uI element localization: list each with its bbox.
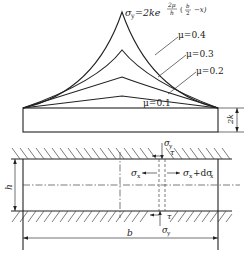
svg-text:h: h [170,9,174,16]
svg-text:τ: τ [167,212,172,221]
horizontal-stresses: σ x σ x +dσ x [131,168,214,179]
svg-text:τ: τ [170,148,175,157]
label-mu-0-4: μ=0.4 [178,30,206,40]
svg-text:(: ( [180,6,183,14]
bottom-stresses: τ σ y [150,211,172,237]
formula: σ y =2ke 2μ h ( b 2 −x) [125,1,207,20]
svg-text:2μ: 2μ [167,1,176,9]
curve-mu-0-2 [23,77,218,108]
svg-text:2k: 2k [226,114,235,125]
curve-leaders [155,37,196,94]
label-mu-0-3: μ=0.3 [186,49,214,59]
base-2k-rect [23,108,218,132]
svg-text:2: 2 [186,10,190,16]
label-mu-0-2: μ=0.2 [196,66,224,76]
dimension-b: b [23,228,218,240]
svg-text:−x): −x) [194,6,207,14]
svg-text:x: x [210,172,214,179]
top-stresses: σ y τ [152,138,175,159]
dimension-h: h [4,159,17,211]
svg-text:b: b [127,228,133,238]
top-die [11,148,232,159]
bottom-die [11,211,232,222]
svg-text:y: y [166,229,171,237]
svg-text:h: h [4,184,14,190]
svg-text:b: b [186,3,190,9]
label-mu-0-1: μ=0.1 [143,98,171,108]
svg-text:=2ke: =2ke [135,7,161,18]
pressure-curves [23,12,218,108]
dimension-2k: 2k [218,108,244,132]
svg-text:x: x [137,172,141,179]
friction-hill-diagram: σ y =2ke 2μ h ( b 2 −x) μ=0.4 μ=0.3 μ=0.… [0,0,252,256]
curve-mu-0-4 [23,12,218,108]
